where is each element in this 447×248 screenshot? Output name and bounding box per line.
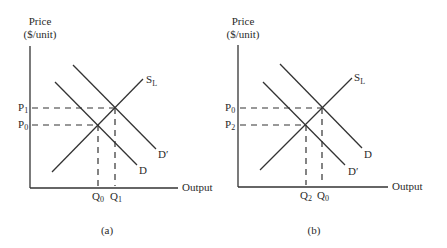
qty-tick-q0: Q0 (92, 190, 104, 204)
supply-label: SL (354, 71, 365, 86)
price-tick-p0: P0 (225, 101, 235, 115)
panel-caption-b: (b) (308, 224, 321, 237)
demand-curve-d (55, 82, 137, 165)
x-axis-label: Output (392, 180, 423, 192)
demand-d-prime-label: D′ (348, 165, 358, 177)
x-axis-label: Output (182, 181, 213, 193)
qty-tick-q0: Q0 (317, 189, 329, 203)
supply-demand-diagram: Price ($/unit) Output SL D D′ P1 P0 Q0 Q… (0, 0, 447, 248)
y-axis-label-unit: ($/unit) (227, 28, 260, 41)
y-axis-label-unit: ($/unit) (24, 28, 57, 41)
y-axis-label-price: Price (29, 15, 52, 27)
demand-d-prime-label: D′ (158, 148, 168, 160)
panel-b: Price ($/unit) Output SL D D′ P0 P2 Q2 Q… (225, 15, 423, 237)
qty-tick-q1: Q1 (110, 190, 122, 204)
demand-d-label: D (139, 164, 147, 176)
panel-a: Price ($/unit) Output SL D D′ P1 P0 Q0 Q… (18, 15, 213, 237)
supply-label: SL (146, 73, 157, 88)
demand-curve-d-prime (263, 82, 345, 165)
y-axis-label-price: Price (232, 15, 255, 27)
demand-d-label: D (364, 148, 372, 160)
demand-curve-d-prime (73, 65, 156, 149)
price-tick-p2: P2 (225, 118, 235, 132)
price-tick-p1: P1 (18, 101, 28, 115)
demand-curve-d (280, 64, 362, 148)
qty-tick-q2: Q2 (300, 189, 312, 203)
price-tick-p0: P0 (18, 118, 28, 132)
panel-caption-a: (a) (101, 224, 114, 237)
